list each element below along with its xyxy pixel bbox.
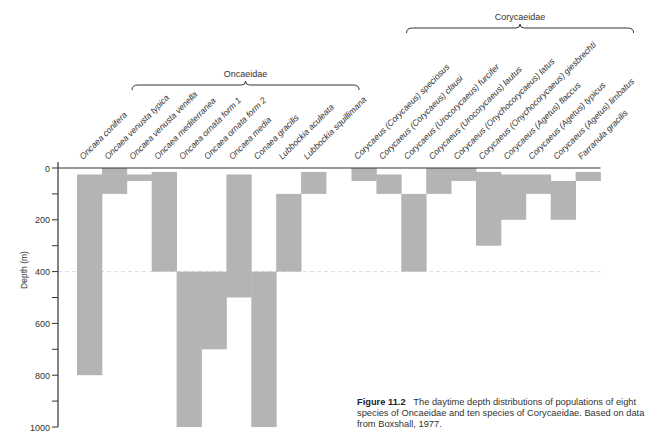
y-tick-label: 800 [35, 371, 50, 381]
depth-bar [376, 174, 401, 193]
species-labels: Oncaea coniferaOncaea venusta typicaOnca… [77, 39, 636, 161]
y-tick-label: 600 [35, 319, 50, 329]
depth-bar [352, 168, 377, 181]
depth-bar [551, 181, 576, 220]
depth-bars [77, 168, 601, 427]
depth-bar [301, 172, 326, 194]
depth-distribution-chart: OncaeidaeCorycaeidae Oncaea coniferaOnca… [0, 0, 666, 445]
y-tick-label: 200 [35, 215, 50, 225]
depth-bar [77, 174, 102, 375]
depth-bar [127, 174, 152, 180]
y-tick-label: 400 [35, 267, 50, 277]
depth-bar [251, 272, 276, 427]
depth-bar [476, 172, 501, 246]
depth-bar [177, 272, 202, 427]
group-brace [407, 24, 634, 33]
group-label: Oncaeidae [224, 69, 268, 79]
depth-bar [426, 168, 451, 194]
depth-bar [276, 194, 301, 272]
depth-bar [526, 174, 551, 193]
depth-bar [576, 172, 601, 181]
y-tick-label: 1000 [30, 423, 50, 433]
depth-bar [152, 172, 177, 272]
depth-bar [226, 174, 251, 297]
depth-bar [501, 174, 526, 219]
depth-bar [451, 168, 476, 181]
depth-bar [401, 194, 426, 272]
y-axis: 02004006008001000 [30, 162, 58, 433]
y-tick-label: 0 [45, 164, 50, 174]
figure-number: Figure 11.2 [357, 397, 406, 407]
group-label: Corycaeidae [495, 12, 546, 22]
group-brace [132, 81, 359, 90]
y-axis-label: Depth (m) [19, 251, 29, 289]
depth-bar [102, 168, 127, 194]
figure-caption: Figure 11.2 The daytime depth distributi… [357, 397, 662, 431]
depth-bar [202, 272, 227, 350]
